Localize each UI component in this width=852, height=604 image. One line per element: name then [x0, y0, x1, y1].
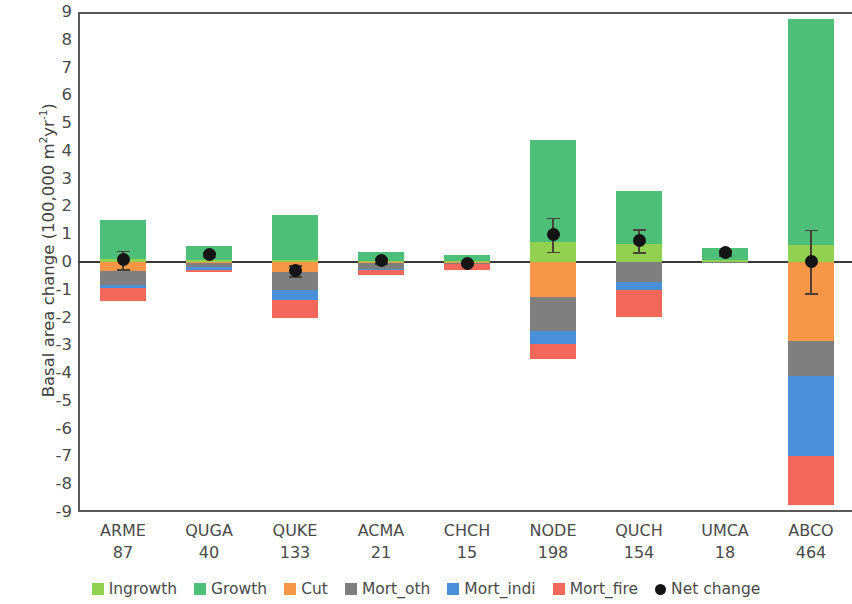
legend-swatch-icon	[92, 583, 104, 595]
species-count: 15	[424, 542, 510, 564]
species-code: QUKE	[252, 520, 338, 542]
bar-node[interactable]	[530, 12, 576, 512]
bar-segment-cut	[530, 262, 576, 297]
bar-segment-mort_fire	[272, 300, 318, 318]
x-category-label-quga: QUGA40	[166, 520, 252, 563]
bar-segment-mort_indi	[788, 376, 834, 457]
x-category-label-quch: QUCH154	[596, 520, 682, 563]
species-count: 87	[80, 542, 166, 564]
legend-item-mort-indi[interactable]: Mort_indi	[447, 580, 535, 598]
net-change-marker[interactable]	[203, 248, 216, 261]
y-tick-label: -6	[32, 421, 72, 438]
species-code: ABCO	[768, 520, 852, 542]
species-count: 21	[338, 542, 424, 564]
bar-segment-mort_indi	[530, 331, 576, 344]
error-bar-cap-upper	[547, 218, 560, 220]
net-change-marker[interactable]	[547, 228, 560, 241]
error-bar-cap-lower	[117, 269, 130, 271]
legend-item-cut[interactable]: Cut	[284, 580, 328, 598]
species-code: NODE	[510, 520, 596, 542]
legend-label: Mort_fire	[570, 580, 638, 598]
bar-segment-mort_oth	[100, 271, 146, 285]
bar-quch[interactable]	[616, 12, 662, 512]
species-count: 40	[166, 542, 252, 564]
legend-label: Growth	[211, 580, 267, 598]
bar-segment-mort_indi	[272, 290, 318, 300]
species-code: QUGA	[166, 520, 252, 542]
net-change-marker[interactable]	[805, 255, 818, 268]
plot-area	[78, 12, 852, 512]
legend-label: Mort_oth	[362, 580, 430, 598]
species-code: QUCH	[596, 520, 682, 542]
legend-label: Cut	[301, 580, 328, 598]
y-tick-label: 9	[32, 4, 72, 21]
species-code: UMCA	[682, 520, 768, 542]
net-change-marker[interactable]	[719, 246, 732, 259]
bar-quga[interactable]	[186, 12, 232, 512]
error-bar-cap-upper	[805, 230, 818, 232]
y-tick-label: 6	[32, 87, 72, 104]
error-bar-cap-upper	[633, 229, 646, 231]
legend-dot-icon	[655, 584, 666, 595]
legend-swatch-icon	[194, 583, 206, 595]
legend-item-mort-fire[interactable]: Mort_fire	[553, 580, 638, 598]
legend-label: Ingrowth	[109, 580, 177, 598]
legend-swatch-icon	[447, 583, 459, 595]
error-bar-cap-lower	[633, 252, 646, 254]
y-tick-label: -5	[32, 393, 72, 410]
x-category-label-abco: ABCO464	[768, 520, 852, 563]
y-tick-label: 8	[32, 32, 72, 49]
y-tick-label: -2	[32, 310, 72, 327]
species-count: 154	[596, 542, 682, 564]
net-change-marker[interactable]	[117, 253, 130, 266]
bar-quke[interactable]	[272, 12, 318, 512]
net-change-marker[interactable]	[461, 257, 474, 270]
y-tick-label: -1	[32, 282, 72, 299]
x-category-label-umca: UMCA18	[682, 520, 768, 563]
legend-item-mort-oth[interactable]: Mort_oth	[345, 580, 430, 598]
legend-label: Net change	[671, 580, 760, 598]
legend-swatch-icon	[345, 583, 357, 595]
bar-segment-mort_fire	[358, 270, 404, 276]
bar-segment-growth	[272, 215, 318, 261]
bar-segment-mort_oth	[616, 262, 662, 282]
chart-figure: Basal area change (100,000 m2yr-1) 98765…	[0, 0, 852, 604]
species-code: ARME	[80, 520, 166, 542]
y-tick-label: -4	[32, 365, 72, 382]
y-tick-label: 5	[32, 115, 72, 132]
y-tick-label: 4	[32, 143, 72, 160]
legend-label: Mort_indi	[464, 580, 535, 598]
net-change-marker[interactable]	[633, 234, 646, 247]
bar-umca[interactable]	[702, 12, 748, 512]
species-count: 133	[252, 542, 338, 564]
y-tick-label: -9	[32, 504, 72, 521]
bar-segment-mort_fire	[616, 290, 662, 317]
bar-segment-mort_indi	[616, 282, 662, 290]
y-tick-label: -3	[32, 337, 72, 354]
error-bar-cap-lower	[805, 293, 818, 295]
y-tick-label: -8	[32, 476, 72, 493]
bar-segment-growth	[788, 19, 834, 245]
error-bar-cap-lower	[547, 252, 560, 254]
y-tick-label: 3	[32, 171, 72, 188]
species-count: 18	[682, 542, 768, 564]
bar-segment-mort_fire	[530, 344, 576, 359]
legend-item-ingrowth[interactable]: Ingrowth	[92, 580, 177, 598]
y-axis-tick-labels: 9876543210-1-2-3-4-5-6-7-8-9	[28, 12, 72, 512]
species-count: 198	[510, 542, 596, 564]
species-code: ACMA	[338, 520, 424, 542]
y-tick-label: 2	[32, 198, 72, 215]
bar-segment-mort_oth	[788, 341, 834, 376]
error-bar-cap-upper	[117, 251, 130, 253]
species-code: CHCH	[424, 520, 510, 542]
net-change-marker[interactable]	[289, 264, 302, 277]
legend-item-net-change[interactable]: Net change	[655, 580, 760, 598]
species-count: 464	[768, 542, 852, 564]
x-category-label-node: NODE198	[510, 520, 596, 563]
x-category-label-quke: QUKE133	[252, 520, 338, 563]
net-change-marker[interactable]	[375, 254, 388, 267]
y-tick-label: -7	[32, 448, 72, 465]
legend-item-growth[interactable]: Growth	[194, 580, 267, 598]
y-tick-label: 0	[32, 254, 72, 271]
bar-segment-mort_fire	[100, 288, 146, 301]
